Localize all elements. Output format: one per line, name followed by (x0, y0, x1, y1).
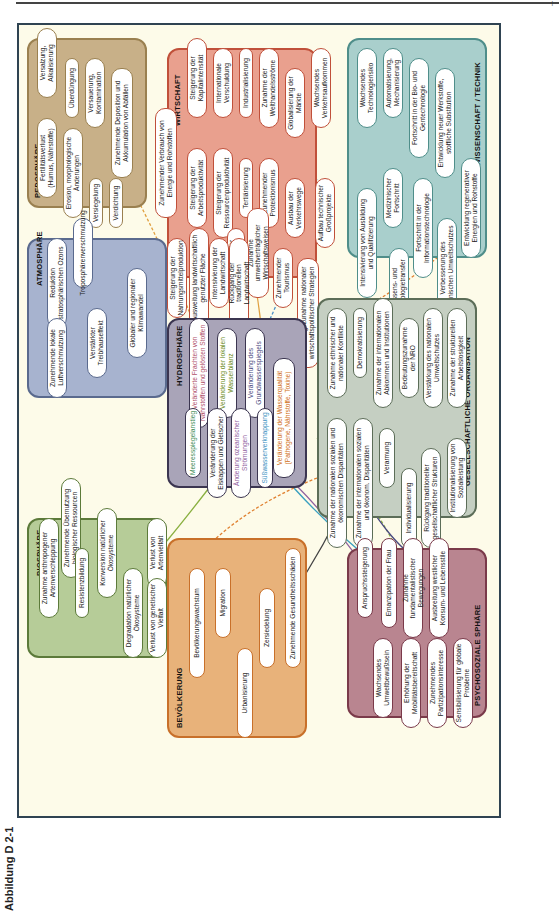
node-globalisierung: Globalisierung der Märkte (285, 68, 305, 138)
node-individualisierung: Individualisierung (401, 468, 417, 548)
node-automatisierung: Automatisierung, Mechanisierung (383, 48, 403, 118)
node-deposition: Zunehmende Deposition und Akkumulation v… (111, 68, 133, 178)
sphere-title: WISSENSCHAFT / TECHNIK (473, 62, 482, 166)
node-partizipation: Zunehmendes Partizipationsinteresse (427, 638, 447, 728)
node-anspruchssteigerung: Anspruchssteigerung (357, 538, 373, 618)
node-degradation: Degradation natürlicher Ökosysteme (123, 568, 143, 658)
node-wasserqualitaet: Veränderung der Wasserqualität (Pathogen… (273, 358, 295, 478)
diagram-stage: PEDOSPHÄRE Versalzung, Alkalisierung Übe… (17, 23, 501, 818)
figure-caption-text: Abbildung D 2-1 (3, 827, 15, 911)
node-intensivierung-landwirtschaft: Intensivierung der Landwirtschaft (209, 238, 229, 308)
node-versauerung: Versauerung, Kontamination (85, 58, 105, 128)
diagram-frame: PEDOSPHÄRE Versalzung, Alkalisierung Übe… (17, 23, 501, 818)
sphere-title: BEVÖLKERUNG (175, 667, 184, 728)
node-grossprojekte: Aufbau technischer Großprojekte (315, 178, 335, 248)
node-versalzung: Versalzung, Alkalisierung (37, 28, 57, 98)
node-traditionelle-landwirtschaft: Rückgang der traditionellen Landwirtscha… (229, 238, 249, 328)
node-energieverbrauch: Zunehmender Verbrauch von Energie und Ro… (155, 108, 177, 218)
node-verkehrsaufkommen: Wachsendes Verkehrsaufkommen (311, 48, 331, 128)
node-biotechnologie: Fortschritt in der Bio- und Gentechnolog… (409, 58, 429, 158)
node-demokratisierung: Demokratisierung (353, 308, 367, 378)
node-urbanisierung: Urbanisierung (237, 648, 253, 738)
node-artenverschleppung: Zunahme anthropogener Artenverschleppung (39, 518, 59, 618)
node-tourismus: Zunehmender Tourismus (273, 248, 293, 308)
node-verarmung: Verarmung (379, 428, 395, 488)
node-verdichtung: Verdichtung (109, 178, 123, 228)
node-ausbildung: Intensivierung von Ausbildung und Qualif… (357, 188, 377, 298)
node-industrialisierung: Industrialisierung (239, 48, 253, 118)
node-suesswasser: Süßwasserverknappung (257, 408, 273, 488)
node-ozon: Reduktion stratosphärischen Ozons (47, 238, 67, 328)
node-nro: Bedeutungszunahme der NRO (399, 318, 419, 398)
node-umweltbewusstsein: Wachsendes Umweltbewußtsein (373, 638, 393, 718)
node-resistenzbildung: Resistenzbildung (75, 548, 89, 618)
node-erosion: Erosion, morphologische Änderungen (63, 128, 83, 218)
node-nationaler-umweltschutz: Verstärkung des nationalen Umweltschutze… (423, 308, 443, 408)
node-kapitalintensitaet: Steigerung der Kapitalintensität (187, 38, 207, 118)
node-ressourcenproduktivitaet: Steigerung der Ressourcenproduktivität (213, 148, 233, 238)
node-welthandel: Zunahme der Welthandelsströme (259, 48, 279, 128)
node-genetische-vielfalt: Verlust von genetischer Vielfalt (147, 578, 167, 658)
node-technologierisiko: Wachsendes Technologierisiko (357, 48, 377, 128)
node-fundamentalismus: Zunahme fundamentalistischer Bewegungen (403, 538, 423, 638)
node-gesundheitsschaeden: Zunehmende Gesundheitsschäden (285, 548, 301, 668)
node-werkstoffe: Entwicklung neuer Werkstoffe, stoffliche… (435, 68, 455, 178)
node-nationale-disparitaeten: Zunahme der nationalen sozialen und ökon… (327, 418, 347, 548)
node-wasserbilanz: Veränderung der lokalen Wasserbilanz (217, 328, 237, 418)
node-eiskappen: Veränderung der Eiskappen und Gletscher (207, 408, 227, 498)
node-verkehrswege: Ausbau der Verkehrswege (285, 178, 305, 238)
node-mobilitaet: Erhöhung der Mobilitätsbereitschaft (401, 638, 421, 728)
node-informationstechnologie: Fortschritt in der Informationstechnolog… (413, 178, 433, 278)
node-stroemungen: Änderung ozeanischer Strömungen (231, 408, 251, 498)
node-nahrungsmittel: Steigerung der Nahrungsmittelproduktion (167, 238, 187, 318)
sphere-title: PSYCHOSOZIALE SPHÄRE (473, 604, 482, 706)
node-abkommen: Zunahme der internationalen Abkommen und… (373, 298, 393, 408)
node-luftverschmutzung: Zunehmende lokale Luftverschmutzung (47, 318, 67, 398)
node-verschuldung: Internationale Verschuldung (213, 48, 233, 118)
node-internationale-disparitaeten: Zunahme der internationalen sozialen und… (353, 418, 373, 548)
node-arbeitslosigkeit: Zunahme der strukturellen Arbeitslosigke… (447, 308, 467, 408)
node-emanzipation: Emanzipation der Frau (381, 538, 397, 628)
node-landwirtschaftliche-flaeche: Ausweitung landwirtschaftlich genutzter … (189, 228, 209, 328)
node-fertilitaet: Fertilitätsverlust (Humus, Nährstoffe) (37, 118, 57, 198)
node-konversion: Konversion natürlicher Ökosysteme (97, 508, 117, 598)
node-grundwasser: Veränderung des Grundwasserspiegels (245, 328, 265, 418)
node-regenerative-energien: Entwicklung regenerativer Energien und R… (461, 158, 481, 258)
node-klimawandel: Globaler und regionaler Klimawandel (127, 268, 147, 358)
node-troposphaere: Troposphärenverschmutzung (73, 218, 93, 288)
node-versiegelung: Versiegelung (89, 178, 103, 228)
node-konflikte: Zunahme ethnischer und nationaler Konfli… (327, 308, 347, 398)
node-treibhauseffekt: Verstärkter Treibhauseffekt (87, 308, 107, 378)
node-konsum-lebensstile: Ausbreitung westlicher Konsum- und Leben… (429, 538, 449, 638)
node-migration: Migration (215, 568, 231, 638)
sphere-title: ATMOSPHÄRE (35, 231, 44, 286)
node-sozialleistung: Institutionalisierung von Sozialleistung (447, 438, 467, 518)
node-ueberduengung: Überdüngung (65, 58, 79, 118)
page-header-rule (16, 2, 559, 4)
sphere-title: HYDROSPHÄRE (175, 325, 184, 386)
node-arbeitsproduktivitaet: Steigerung der Arbeitsproduktivität (187, 148, 207, 228)
page-number: | (551, 0, 553, 6)
figure-caption: Abbildung D 2-1 (3, 763, 17, 843)
node-meeresspiegel: Meeresspiegelanstieg (185, 408, 201, 478)
node-medizin: Medizinischer Fortschritt (383, 168, 403, 228)
node-sensibilisierung: Sensibilisierung für globale Probleme (453, 638, 473, 728)
node-traditionelle-strukturen: Rückgang traditioneller gesellschaftlich… (421, 448, 441, 548)
node-zersiedelung: Zersiedelung (259, 588, 275, 668)
node-bevoelkerungswachstum: Bevölkerungswachstum (189, 568, 205, 678)
